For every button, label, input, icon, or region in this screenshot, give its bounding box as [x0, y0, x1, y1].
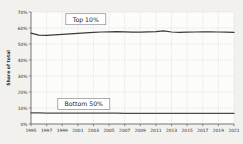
y-tick-label: 10%	[18, 106, 28, 111]
x-tick-label: 2017	[197, 128, 208, 133]
x-tick-label: 2003	[88, 128, 99, 133]
x-tick-label: 2005	[103, 128, 114, 133]
x-tick-label: 2009	[135, 128, 146, 133]
annotation-top-10: Top 10%	[66, 14, 106, 25]
y-tick-label: 20%	[18, 90, 28, 95]
annotation-top-10-label: Top 10%	[72, 16, 99, 24]
y-tick-label: 0%	[20, 122, 27, 127]
x-tick-label: 1997	[41, 128, 52, 133]
x-tick-label: 2019	[213, 128, 224, 133]
x-tick-label: 2013	[166, 128, 177, 133]
x-tick-label: 2021	[228, 128, 239, 133]
x-tick-label: 1995	[25, 128, 36, 133]
x-tick-label: 2015	[182, 128, 193, 133]
y-tick-label: 60%	[18, 26, 28, 31]
y-tick-label: 30%	[18, 74, 28, 79]
x-tick-label: 2011	[150, 128, 161, 133]
annotation-bottom-50: Bottom 50%	[58, 99, 110, 110]
x-tick-label: 1999	[57, 128, 68, 133]
y-tick-label: 50%	[18, 42, 28, 47]
annotation-bottom-50-label: Bottom 50%	[65, 100, 104, 107]
y-axis-title: Share of total	[6, 50, 11, 86]
y-tick-label: 70%	[18, 10, 28, 15]
x-tick-label: 2001	[72, 128, 83, 133]
x-tick-label: 2007	[119, 128, 130, 133]
y-tick-label: 40%	[18, 58, 28, 63]
line-chart: 0%10%20%30%40%50%60%70% 1995199719992001…	[0, 0, 243, 144]
chart-container: 0%10%20%30%40%50%60%70% 1995199719992001…	[0, 0, 243, 144]
